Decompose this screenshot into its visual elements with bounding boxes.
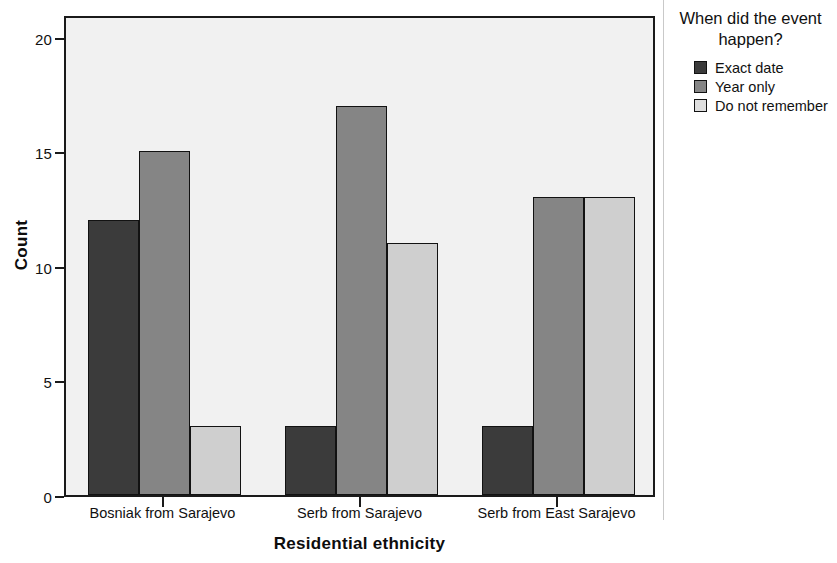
y-tick-mark [55, 496, 64, 498]
bar [88, 220, 139, 495]
y-tick-label: 15 [8, 145, 52, 162]
bar [336, 106, 387, 495]
bar [387, 243, 438, 495]
legend: When did the event happen? Exact dateYea… [668, 8, 837, 115]
y-tick-label: 5 [8, 374, 52, 391]
bar [533, 197, 584, 495]
y-tick-label: 0 [8, 489, 52, 506]
plot-area [64, 16, 655, 497]
bar [139, 151, 190, 495]
bar-chart: Count 05101520 Bosniak from SarajevoSerb… [0, 0, 837, 563]
legend-title-line-2: happen? [668, 29, 833, 50]
legend-item-label: Do not remember [715, 98, 828, 114]
x-tick-label: Serb from East Sarajevo [478, 505, 636, 521]
legend-title-line-1: When did the event [668, 8, 833, 29]
x-tick-label: Serb from Sarajevo [297, 505, 422, 521]
bar [482, 426, 533, 495]
bar [190, 426, 241, 495]
bars-container [66, 18, 653, 495]
legend-item: Do not remember [694, 96, 837, 115]
y-tick-label: 10 [8, 259, 52, 276]
y-tick-mark [55, 38, 64, 40]
legend-divider [663, 0, 664, 520]
legend-swatch-icon [694, 80, 707, 93]
legend-items: Exact dateYear onlyDo not remember [694, 58, 837, 115]
bar [584, 197, 635, 495]
bar [285, 426, 336, 495]
y-tick-mark [55, 381, 64, 383]
legend-item: Exact date [694, 58, 837, 77]
legend-item-label: Exact date [715, 60, 784, 76]
legend-item-label: Year only [715, 79, 775, 95]
y-tick-mark [55, 267, 64, 269]
legend-item: Year only [694, 77, 837, 96]
legend-swatch-icon [694, 99, 707, 112]
legend-title: When did the event happen? [668, 8, 833, 50]
x-axis-title: Residential ethnicity [64, 534, 655, 554]
x-tick-label: Bosniak from Sarajevo [90, 505, 236, 521]
y-tick-label: 20 [8, 30, 52, 47]
y-tick-mark [55, 152, 64, 154]
legend-swatch-icon [694, 61, 707, 74]
